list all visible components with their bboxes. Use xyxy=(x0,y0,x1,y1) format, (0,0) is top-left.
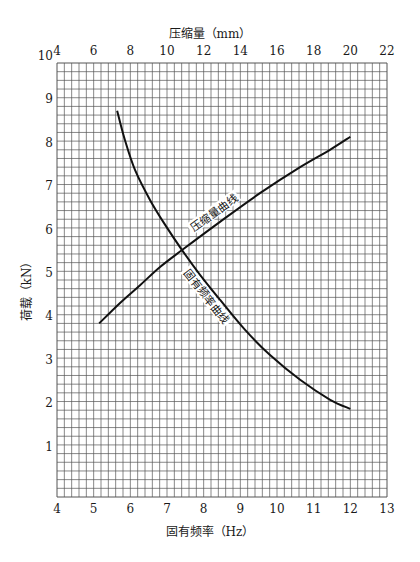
x-tick-label: 8 xyxy=(200,502,208,516)
x-tick-label: 5 xyxy=(90,502,98,516)
x2-tick-label: 22 xyxy=(379,44,394,58)
y-tick-label: 7 xyxy=(45,179,53,193)
y-tick-label: 10 xyxy=(38,49,53,63)
y-tick-label: 2 xyxy=(45,396,53,410)
x2-tick-label: 6 xyxy=(90,44,98,58)
x2-tick-label: 16 xyxy=(269,44,284,58)
x-tick-label: 7 xyxy=(163,502,171,516)
x2-tick-label: 4 xyxy=(53,44,61,58)
x-tick-label: 10 xyxy=(269,502,284,516)
x2-tick-label: 14 xyxy=(233,44,248,58)
x2-tick-label: 10 xyxy=(159,44,174,58)
x-tick-label: 4 xyxy=(53,502,61,516)
y-tick-label: 5 xyxy=(45,266,53,280)
y-tick-label: 1 xyxy=(45,440,53,454)
x2-tick-label: 8 xyxy=(127,44,135,58)
curves xyxy=(99,111,350,409)
y-tick-label: 8 xyxy=(45,136,53,150)
x-tick-label: 13 xyxy=(379,502,394,516)
y-tick-label: 9 xyxy=(45,92,53,106)
y-tick-label: 4 xyxy=(45,309,53,323)
grid-lines xyxy=(57,63,387,497)
chart-plot: 压缩量曲线固有频率曲线 xyxy=(0,0,420,562)
compression-curve xyxy=(99,137,350,324)
x2-tick-label: 18 xyxy=(306,44,321,58)
y-tick-label: 6 xyxy=(45,223,53,237)
x-tick-label: 12 xyxy=(343,502,358,516)
y-tick-label: 3 xyxy=(45,353,53,367)
svg-text:固有频率曲线: 固有频率曲线 xyxy=(181,266,233,327)
x-tick-label: 6 xyxy=(127,502,135,516)
x-tick-label: 9 xyxy=(237,502,245,516)
x2-tick-label: 20 xyxy=(343,44,358,58)
x2-tick-label: 12 xyxy=(196,44,211,58)
x-tick-label: 11 xyxy=(306,502,321,516)
